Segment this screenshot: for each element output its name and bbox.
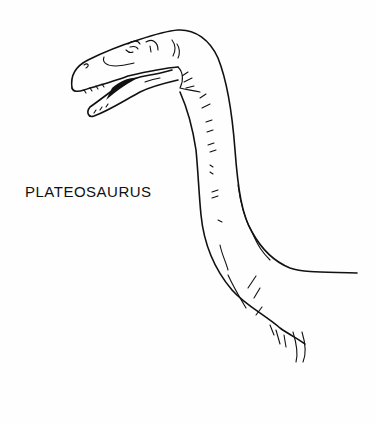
species-caption: PLATEOSAURUS	[25, 183, 152, 200]
illustration-canvas: PLATEOSAURUS	[0, 0, 376, 423]
plateosaurus-drawing	[0, 0, 376, 423]
